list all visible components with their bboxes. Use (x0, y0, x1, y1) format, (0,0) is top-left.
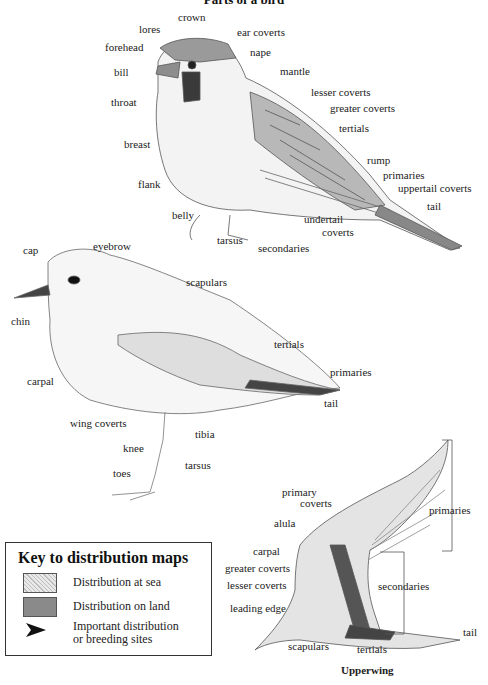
upperwing-illustration (255, 440, 460, 650)
label-tail-plover: tail (324, 397, 338, 409)
label-bill: bill (114, 66, 129, 78)
label-lesser-coverts: lesser coverts (311, 86, 371, 98)
label-cap: cap (23, 244, 38, 256)
key-label-sites-2: or breeding sites (73, 633, 152, 646)
label-alula: alula (274, 517, 295, 529)
label-undertail-coverts-2: coverts (322, 226, 354, 238)
label-forehead: forehead (105, 41, 143, 53)
label-toes: toes (113, 467, 131, 479)
label-crown: crown (178, 11, 206, 23)
label-tail: tail (427, 200, 441, 212)
label-secondaries: secondaries (258, 242, 309, 254)
label-carpal-wing: carpal (253, 545, 280, 557)
label-primaries: primaries (383, 169, 425, 181)
label-rump: rump (367, 154, 390, 166)
upperwing-title: Upperwing (341, 664, 394, 676)
label-flank: flank (138, 178, 161, 190)
label-scapulars-wing: scapulars (288, 640, 329, 652)
label-wing-coverts: wing coverts (70, 417, 127, 429)
label-knee: knee (123, 442, 144, 454)
label-primaries-wing: primaries (429, 504, 471, 516)
label-breast: breast (124, 138, 150, 150)
label-throat: throat (111, 96, 137, 108)
label-secondaries-wing: secondaries (378, 580, 429, 592)
key-title: Key to distribution maps (18, 549, 188, 567)
sea-swatch-icon (23, 573, 57, 593)
plover-illustration (14, 249, 340, 500)
label-primaries-plover: primaries (330, 366, 372, 378)
label-undertail-coverts-1: undertail (304, 213, 343, 225)
distribution-key: Key to distribution maps Distribution at… (5, 542, 212, 656)
label-tarsus-plover: tarsus (185, 459, 211, 471)
arrowhead-icon (26, 623, 46, 637)
label-tertials: tertials (339, 122, 369, 134)
key-label-sea: Distribution at sea (73, 576, 161, 589)
label-greater-coverts: greater coverts (330, 102, 395, 114)
label-greater-coverts-wing: greater coverts (225, 562, 290, 574)
label-tibia: tibia (195, 428, 215, 440)
label-tarsus: tarsus (217, 234, 243, 246)
label-lesser-coverts-wing: lesser coverts (227, 579, 287, 591)
label-nape: nape (250, 46, 271, 58)
label-uppertail-coverts: uppertail coverts (398, 182, 472, 194)
label-tail-wing: tail (463, 626, 477, 638)
key-label-land: Distribution on land (73, 600, 170, 613)
label-lores: lores (139, 23, 160, 35)
label-scapulars: scapulars (186, 276, 227, 288)
label-tertials-wing: tertials (357, 643, 387, 655)
label-eyebrow: eyebrow (93, 240, 131, 252)
label-tertials-plover: tertials (274, 338, 304, 350)
label-mantle: mantle (280, 65, 310, 77)
land-swatch-icon (23, 597, 57, 617)
label-belly: belly (172, 209, 194, 221)
label-ear-coverts: ear coverts (237, 26, 285, 38)
label-chin: chin (11, 315, 30, 327)
label-carpal-plover: carpal (27, 375, 54, 387)
label-leading-edge: leading edge (230, 602, 286, 614)
label-primary-coverts-2: coverts (300, 497, 332, 509)
